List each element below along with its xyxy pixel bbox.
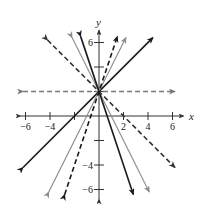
- x-tick-label: 2: [121, 121, 126, 132]
- y-tick-label: −6: [82, 184, 93, 195]
- y-axis-label: y: [95, 16, 101, 28]
- x-tick-label: −6: [20, 121, 31, 132]
- line-family-chart: −6−4246−6−46 x y: [0, 0, 208, 212]
- x-tick-label: 6: [170, 121, 175, 132]
- y-tick-label: 6: [88, 37, 93, 48]
- x-tick-label: −4: [45, 121, 56, 132]
- series-line-6: [81, 36, 134, 194]
- axes: −6−4246−6−46: [20, 30, 183, 199]
- x-axis-label: x: [188, 110, 194, 122]
- series-line-2: [48, 40, 175, 167]
- y-tick-label: −4: [82, 160, 93, 171]
- x-tick-label: 4: [146, 121, 151, 132]
- series-line-5: [65, 36, 118, 194]
